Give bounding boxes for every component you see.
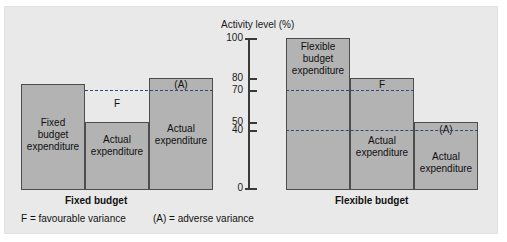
figure-panel: Activity level (%) 100 80 70 50 40 0 Fix… xyxy=(5,7,497,233)
y-axis-label-80: 80 xyxy=(213,72,243,83)
y-axis-tick-40 xyxy=(248,130,257,132)
legend-favourable-variance: F = favourable variance xyxy=(21,213,126,224)
legend-adverse-variance: (A) = adverse variance xyxy=(153,213,254,224)
fixed-budget-bar-3-label: Actual expenditure xyxy=(149,123,213,147)
flexible-budget-bar-3-label: Actual expenditure xyxy=(414,151,478,175)
flexible-budget-reference-line-70 xyxy=(286,90,414,91)
flexible-budget-bar-2 xyxy=(350,78,414,190)
y-axis-label-0: 0 xyxy=(213,182,243,193)
flexible-budget-title: Flexible budget xyxy=(335,195,408,206)
y-axis-label-100: 100 xyxy=(213,32,243,43)
y-axis-tick-50 xyxy=(248,122,257,124)
flexible-budget-reference-line-40 xyxy=(286,130,478,131)
fixed-budget-bar-2-variance: F xyxy=(85,98,149,109)
y-axis-label-40: 40 xyxy=(213,124,243,135)
flexible-budget-bar-2-variance: F xyxy=(350,79,414,90)
y-axis-label-70: 70 xyxy=(213,84,243,95)
axis-title: Activity level (%) xyxy=(221,19,294,30)
fixed-budget-reference-line-70 xyxy=(85,90,213,91)
fixed-budget-bar-2-label: Actual expenditure xyxy=(85,134,149,158)
y-axis-tick-0 xyxy=(248,188,257,190)
y-axis-line xyxy=(248,38,250,190)
y-axis-tick-70 xyxy=(248,90,257,92)
flexible-budget-bar-2-label: Actual expenditure xyxy=(350,135,414,159)
y-axis-tick-80 xyxy=(248,78,257,80)
fixed-budget-title: Fixed budget xyxy=(65,195,127,206)
fixed-budget-bar-1-label: Fixed budget expenditure xyxy=(21,117,85,153)
fixed-budget-bar-3-variance: (A) xyxy=(149,79,213,90)
flexible-budget-bar-1-label: Flexible budget expenditure xyxy=(286,41,350,77)
y-axis-tick-100 xyxy=(248,38,257,40)
